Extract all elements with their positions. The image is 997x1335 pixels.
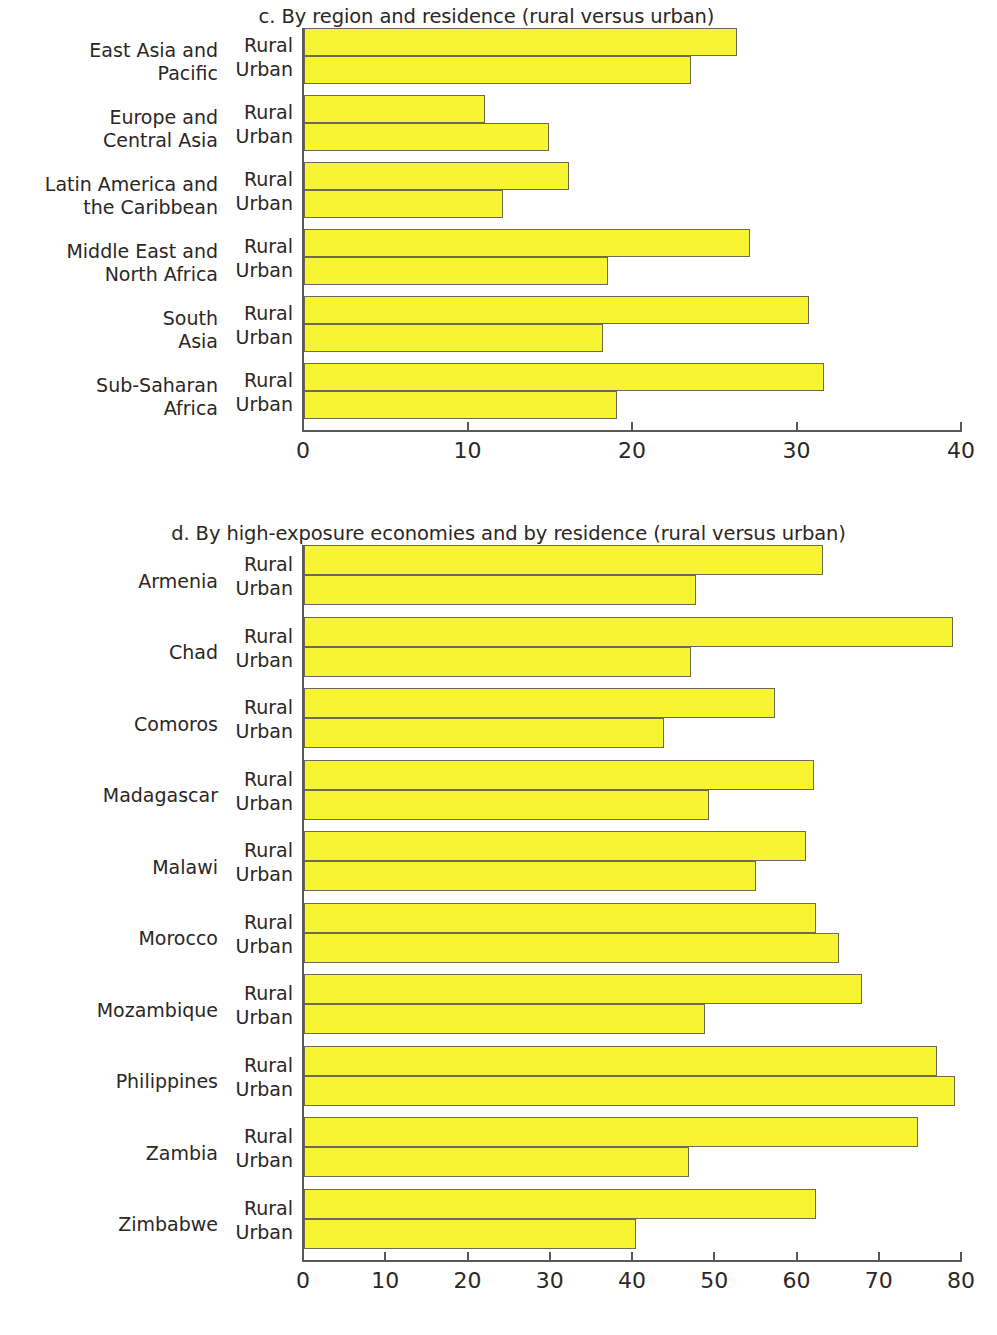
category-label-line: Philippines [0, 1070, 218, 1092]
axis-tick-label: 60 [783, 1268, 811, 1293]
bar-urban [304, 324, 603, 352]
panel-c-region-residence: c. By region and residence (rural versus… [0, 0, 997, 505]
axis-tick [960, 422, 962, 430]
chart-d-tick-labels: 01020304050607080 [302, 1262, 962, 1296]
axis-tick-label: 30 [783, 438, 811, 463]
residence-label-group: RuralUrban [228, 1046, 302, 1118]
residence-label-urban: Urban [228, 392, 302, 424]
axis-tick-label: 20 [618, 438, 646, 463]
residence-label-group: RuralUrban [228, 162, 302, 229]
residence-label-rural: Rural [228, 831, 302, 862]
axis-tick [549, 1252, 551, 1260]
category-label-line: North Africa [0, 263, 218, 285]
bar-urban [304, 790, 709, 820]
axis-tick [796, 422, 798, 430]
category-label: SouthAsia [0, 296, 228, 363]
bar-row [304, 861, 997, 895]
residence-label-group: RuralUrban [228, 688, 302, 760]
residence-label-rural: Rural [228, 617, 302, 648]
bar-rural [304, 95, 485, 123]
residence-label-group: RuralUrban [228, 363, 302, 430]
residence-label-urban: Urban [228, 1077, 302, 1112]
residence-label-urban: Urban [228, 934, 302, 969]
axis-tick-label: 0 [296, 438, 310, 463]
panel-d-title: d. By high-exposure economies and by res… [0, 505, 997, 545]
category-label-line: Africa [0, 397, 218, 419]
bar-urban [304, 257, 608, 285]
bar-rural [304, 974, 862, 1004]
chart-c-residence-labels: RuralUrbanRuralUrbanRuralUrbanRuralUrban… [228, 28, 302, 430]
category-label-line: Mozambique [0, 999, 218, 1021]
bar-rural [304, 296, 809, 324]
bar-group [304, 95, 997, 162]
bar-row [304, 790, 997, 824]
residence-label-group: RuralUrban [228, 95, 302, 162]
axis-tick [302, 1252, 304, 1260]
bar-rural [304, 617, 953, 647]
bar-group [304, 1117, 997, 1189]
residence-label-group: RuralUrban [228, 617, 302, 689]
category-label-line: Comoros [0, 713, 218, 735]
residence-label-rural: Rural [228, 1189, 302, 1220]
bar-urban [304, 56, 691, 84]
bar-row [304, 831, 997, 861]
residence-label-urban: Urban [228, 57, 302, 89]
bar-row [304, 1219, 997, 1253]
panel-d-high-exposure-economies: d. By high-exposure economies and by res… [0, 505, 997, 1335]
axis-tick-label: 70 [865, 1268, 893, 1293]
bar-row [304, 324, 997, 355]
bar-group [304, 760, 997, 832]
bar-urban [304, 647, 691, 677]
axis-tick-label: 10 [454, 438, 482, 463]
chart-c-x-axis: 010203040 [302, 430, 997, 466]
bar-group [304, 363, 997, 430]
residence-label-rural: Rural [228, 903, 302, 934]
bar-rural [304, 363, 824, 391]
category-label-line: East Asia and [0, 39, 218, 61]
residence-label-urban: Urban [228, 719, 302, 754]
category-label-line: South [0, 307, 218, 329]
bar-row [304, 296, 997, 324]
bar-row [304, 1147, 997, 1181]
category-label-line: Sub-Saharan [0, 374, 218, 396]
category-label: Madagascar [0, 760, 228, 832]
chart-c-bars [302, 28, 997, 430]
bar-urban [304, 190, 503, 218]
chart-c-category-labels: East Asia andPacificEurope andCentral As… [0, 28, 228, 430]
residence-label-urban: Urban [228, 191, 302, 223]
residence-label-rural: Rural [228, 162, 302, 191]
bar-group [304, 229, 997, 296]
bar-urban [304, 861, 756, 891]
category-label: Middle East andNorth Africa [0, 229, 228, 296]
residence-label-urban: Urban [228, 1220, 302, 1255]
residence-label-rural: Rural [228, 688, 302, 719]
category-label-line: Morocco [0, 927, 218, 949]
bar-row [304, 647, 997, 681]
residence-label-group: RuralUrban [228, 1189, 302, 1261]
residence-label-urban: Urban [228, 325, 302, 357]
bar-rural [304, 545, 823, 575]
bar-row [304, 688, 997, 718]
bar-rural [304, 229, 750, 257]
axis-tick [302, 422, 304, 430]
chart-d-plot-area: ArmeniaChadComorosMadagascarMalawiMorocc… [0, 545, 997, 1260]
panel-c-title: c. By region and residence (rural versus… [0, 0, 997, 28]
bar-rural [304, 831, 806, 861]
residence-label-group: RuralUrban [228, 974, 302, 1046]
category-label: Zimbabwe [0, 1189, 228, 1261]
bar-group [304, 974, 997, 1046]
chart-d-category-labels: ArmeniaChadComorosMadagascarMalawiMorocc… [0, 545, 228, 1260]
bar-rural [304, 1117, 918, 1147]
residence-label-urban: Urban [228, 576, 302, 611]
axis-tick-label: 40 [618, 1268, 646, 1293]
axis-tick [713, 1252, 715, 1260]
category-label-line: Europe and [0, 106, 218, 128]
category-label-line: Middle East and [0, 240, 218, 262]
category-label: Mozambique [0, 974, 228, 1046]
bar-row [304, 617, 997, 647]
residence-label-group: RuralUrban [228, 296, 302, 363]
category-label: Malawi [0, 831, 228, 903]
bar-group [304, 831, 997, 903]
chart-c-plot-area: East Asia andPacificEurope andCentral As… [0, 28, 997, 430]
bar-rural [304, 688, 775, 718]
